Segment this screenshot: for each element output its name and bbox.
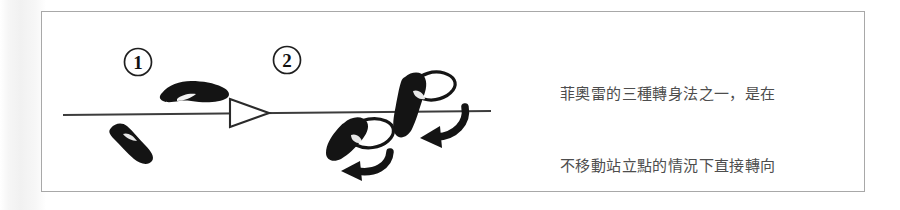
rotating-foot-group-upper (393, 72, 465, 148)
filled-footprint-icon (326, 117, 368, 161)
horizontal-guide-line-icon (63, 111, 491, 115)
step-label-1: 1 (133, 52, 143, 73)
paper-gradient (0, 0, 46, 210)
rotating-foot-group-lower (326, 117, 393, 181)
caption-line-2: 不移動站立點的情況下直接轉向 (560, 154, 860, 178)
page-bleed-artifact-icon (0, 0, 46, 210)
bleed-sword-ghost-icon (0, 0, 46, 210)
circled-number-one-icon: 1 (125, 49, 152, 76)
curved-rotation-arrow-icon (420, 107, 465, 148)
circled-number-two-icon: 2 (274, 47, 301, 74)
step-label-2: 2 (282, 50, 292, 71)
hollow-triangle-right-icon (230, 99, 269, 127)
figure-page: 1 2 (0, 0, 900, 210)
caption-line-1: 菲奧雷的三種轉身法之一，是在 (560, 82, 860, 106)
filled-footprint-icon (109, 124, 153, 164)
filled-footprint-icon (393, 73, 426, 138)
curved-rotation-arrow-icon (341, 152, 390, 181)
filled-footprint-icon (160, 81, 229, 102)
figure-caption: 菲奧雷的三種轉身法之一，是在 不移動站立點的情況下直接轉向 相反側。 (560, 34, 860, 210)
